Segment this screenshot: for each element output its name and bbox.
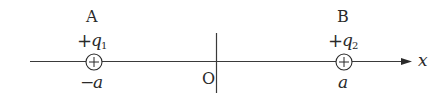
charge-b: B + q 2 a: [328, 7, 358, 92]
point-b-label: B: [337, 7, 349, 26]
point-a-label: A: [85, 7, 98, 26]
x-axis-label: x: [418, 50, 428, 70]
charge-a: A + q 1 − a: [77, 7, 107, 92]
charge-b-position-label: a: [338, 72, 348, 92]
charge-a-subscript: 1: [101, 40, 107, 51]
charge-b-sign: +: [328, 30, 343, 51]
charge-axis-diagram: O x A + q 1 − a B + q 2 a: [0, 0, 441, 100]
charge-b-subscript: 2: [352, 40, 358, 51]
origin-label: O: [202, 69, 215, 88]
x-axis-arrow-icon: [401, 58, 412, 65]
charge-a-sign: +: [77, 30, 92, 51]
charge-a-position-label: a: [93, 72, 103, 92]
